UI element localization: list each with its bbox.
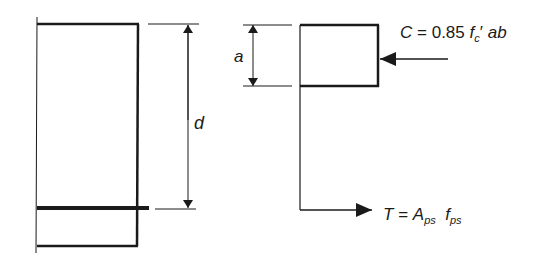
- a-label: a: [234, 48, 243, 65]
- t-symbol: T: [383, 205, 393, 224]
- t-a: A: [413, 205, 424, 224]
- stress-block: [300, 25, 448, 210]
- t-a-sub: ps: [424, 214, 436, 226]
- dimension-a: [243, 25, 292, 86]
- beam-section: [36, 17, 149, 253]
- beam-right-edge: [137, 24, 138, 246]
- beam-left-edge: [36, 17, 37, 253]
- c-ab: ab: [488, 23, 507, 42]
- t-equals: =: [398, 205, 408, 224]
- compression-force-label: C = 0.85 fc′ ab: [400, 24, 507, 41]
- t-f-sub: ps: [450, 214, 462, 226]
- d-label: d: [194, 114, 204, 132]
- c-coefficient: 0.85: [432, 23, 465, 42]
- dimension-d: [148, 24, 199, 209]
- tension-force-label: T = Aps fps: [383, 206, 462, 223]
- c-prime: ′: [480, 23, 483, 42]
- c-symbol: C: [400, 23, 412, 42]
- c-equals: =: [417, 23, 427, 42]
